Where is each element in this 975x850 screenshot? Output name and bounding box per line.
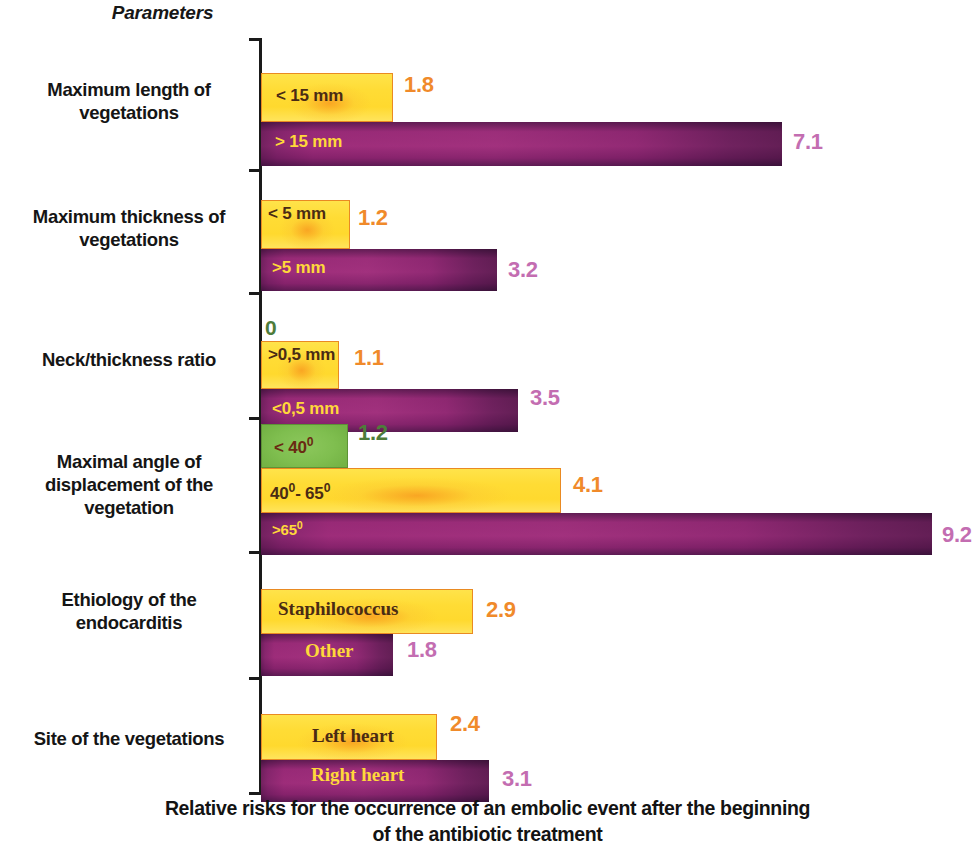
bar-max-thickness-lt5: < 5 mm — [261, 200, 350, 249]
bar-ethiology-other: Other — [261, 634, 393, 676]
bar-angle-gt65: >650 — [261, 513, 932, 555]
category-label-maximum-thickness: Maximum thickness of vegetations — [8, 205, 250, 251]
value-label-7-1: 7.1 — [793, 129, 823, 155]
axis-tick-g2-g3 — [249, 292, 260, 295]
bar-angle-lt40: < 400 — [261, 424, 348, 468]
bar-label: < 400 — [274, 435, 313, 458]
axis-tick-g4-g5 — [249, 551, 260, 554]
category-label-ethiology: Ethiology of the endocarditis — [8, 588, 250, 634]
value-label-1-2a: 1.2 — [358, 205, 388, 231]
value-label-2-4: 2.4 — [450, 711, 480, 737]
value-label-3-5: 3.5 — [530, 385, 560, 411]
axis-tick-g5-g6 — [249, 677, 260, 680]
value-label-1-1: 1.1 — [354, 345, 384, 371]
category-label-neck-thickness: Neck/thickness ratio — [8, 348, 250, 371]
category-label-site: Site of the vegetations — [8, 727, 250, 750]
bar-label: >650 — [272, 519, 303, 538]
value-label-3-2: 3.2 — [508, 257, 538, 283]
bar-label: >0,5 mm — [268, 345, 335, 365]
bar-neck-gt05: >0,5 mm — [261, 341, 339, 389]
bar-label: Left heart — [312, 725, 394, 747]
category-label-maximum-length: Maximum length of vegetations — [8, 78, 250, 124]
value-label-1-8b: 1.8 — [407, 637, 437, 663]
value-label-1-8: 1.8 — [404, 72, 434, 98]
bar-max-length-gt15: > 15 mm — [261, 122, 782, 166]
value-label-1-2b: 1.2 — [358, 420, 388, 446]
bar-label: <0,5 mm — [272, 399, 339, 419]
bar-label: >5 mm — [272, 258, 325, 278]
page-title: Parameters — [65, 2, 260, 24]
bar-label: < 5 mm — [268, 204, 326, 224]
category-label-maximal-angle: Maximal angle of displacement of the veg… — [8, 450, 250, 519]
caption-line-1: Relative risks for the occurrence of an … — [0, 795, 975, 821]
bar-label: Staphilococcus — [278, 598, 398, 620]
caption-line-2: of the antibiotic treatment — [0, 821, 975, 847]
axis-tick-g3-g4 — [249, 417, 260, 420]
bar-max-thickness-gt5: >5 mm — [261, 249, 497, 291]
bar-max-length-lt15: < 15 mm — [261, 73, 393, 122]
bar-label: < 15 mm — [276, 86, 343, 106]
bar-label: 400- 650 — [270, 481, 330, 504]
value-label-0: 0 — [265, 316, 276, 340]
axis-top-cap — [249, 38, 260, 41]
value-label-4-1: 4.1 — [573, 472, 603, 498]
bar-label: > 15 mm — [275, 132, 342, 152]
bar-label: Right heart — [311, 764, 404, 786]
chart-caption: Relative risks for the occurrence of an … — [0, 795, 975, 847]
bar-ethiology-staph: Staphilococcus — [261, 589, 473, 634]
axis-tick-g1-g2 — [249, 169, 260, 172]
chart-container: Parameters Maximum length of vegetations… — [0, 0, 975, 850]
value-label-9-2: 9.2 — [942, 522, 972, 548]
bar-angle-40-65: 400- 650 — [261, 468, 561, 513]
bar-label: Other — [305, 640, 354, 662]
value-label-2-9: 2.9 — [486, 597, 516, 623]
bar-site-left-heart: Left heart — [261, 714, 437, 760]
value-label-3-1: 3.1 — [502, 766, 532, 792]
